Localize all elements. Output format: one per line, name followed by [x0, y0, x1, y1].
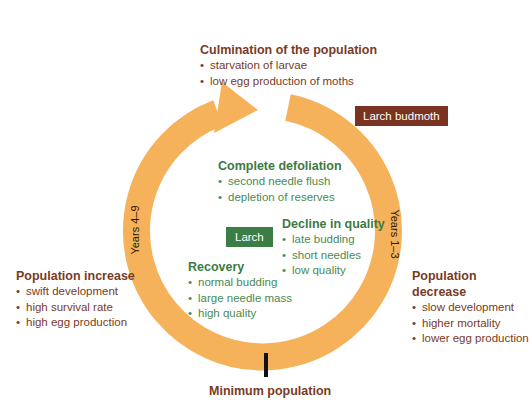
population-decrease-title: Population decrease [412, 268, 532, 300]
list-item: swift development [16, 284, 135, 300]
list-item: late budding [282, 232, 385, 248]
list-item: lower egg production [412, 331, 532, 347]
decline-in-quality-list: late budding short needles low quality [282, 232, 385, 279]
arrowhead-icon [214, 82, 258, 133]
list-item: high egg production [16, 315, 135, 331]
decline-in-quality-title: Decline in quality [282, 216, 385, 232]
decline-in-quality-block: Decline in quality late budding short ne… [282, 216, 385, 279]
years-4-9-label: Years 4–9 [129, 205, 141, 254]
list-item: second needle flush [218, 174, 342, 190]
list-item: slow development [412, 300, 532, 316]
minimum-population-label: Minimum population [209, 383, 331, 399]
population-increase-title: Population increase [16, 268, 135, 284]
list-item: high quality [188, 306, 292, 322]
complete-defoliation-block: Complete defoliation second needle flush… [218, 158, 342, 205]
list-item: large needle mass [188, 291, 292, 307]
list-item: depletion of reserves [218, 190, 342, 206]
population-decrease-list: slow development higher mortality lower … [412, 300, 532, 347]
recovery-block: Recovery normal budding large needle mas… [188, 259, 292, 322]
complete-defoliation-title: Complete defoliation [218, 158, 342, 174]
list-item: higher mortality [412, 316, 532, 332]
complete-defoliation-list: second needle flush depletion of reserve… [218, 174, 342, 205]
list-item: normal budding [188, 275, 292, 291]
recovery-list: normal budding large needle mass high qu… [188, 275, 292, 322]
culmination-block: Culmination of the population starvation… [200, 42, 377, 89]
list-item: short needles [282, 248, 385, 264]
culmination-list: starvation of larvae low egg production … [200, 58, 377, 89]
list-item: high survival rate [16, 300, 135, 316]
list-item: starvation of larvae [200, 58, 377, 74]
recovery-title: Recovery [188, 259, 292, 275]
list-item: low quality [282, 263, 385, 279]
minimum-marker [264, 353, 268, 377]
population-decrease-block: Population decrease slow development hig… [412, 268, 532, 347]
population-increase-block: Population increase swift development hi… [16, 268, 135, 331]
larch-tag: Larch [226, 227, 273, 247]
population-increase-list: swift development high survival rate hig… [16, 284, 135, 331]
larch-budmoth-tag: Larch budmoth [355, 106, 448, 126]
years-1-3-label: Years 1–3 [389, 209, 401, 258]
list-item: low egg production of moths [200, 74, 377, 90]
culmination-title: Culmination of the population [200, 42, 377, 58]
